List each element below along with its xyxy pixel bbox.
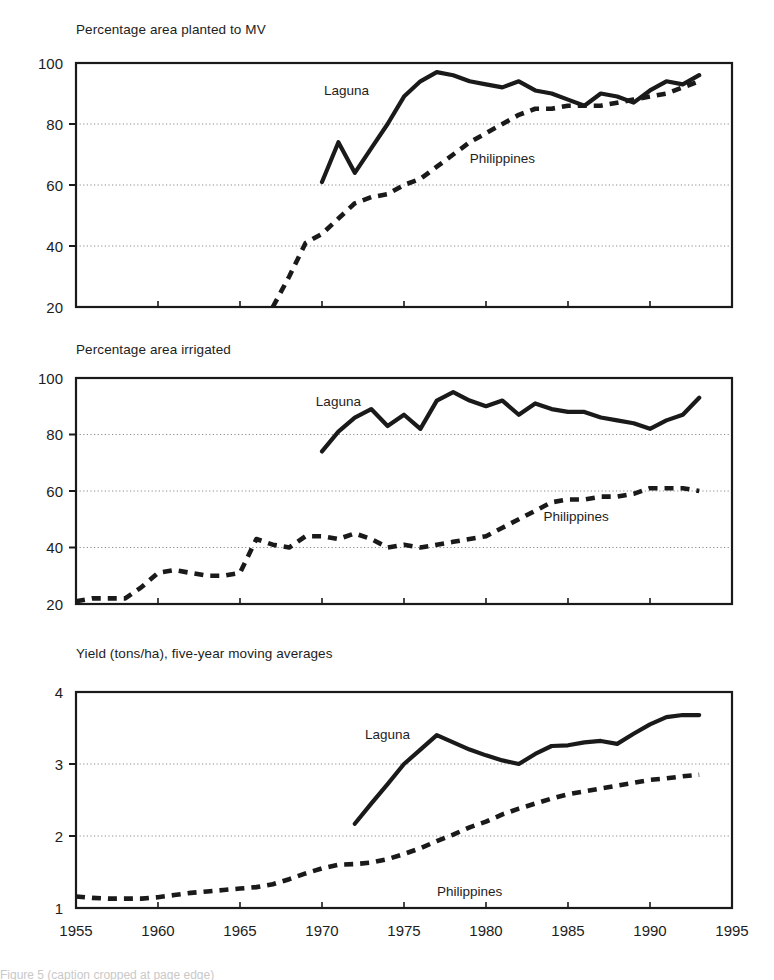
- y-tick-label: 40: [46, 238, 63, 255]
- plot-area-yield: 1234195519601965197019751980198519901995…: [0, 620, 774, 970]
- x-tick-label: 1955: [59, 922, 92, 939]
- chart-panel-mv: Percentage area planted to MV 2040608010…: [0, 0, 774, 320]
- plot-area-irrigated: 20406080100LagunaPhilippines: [0, 320, 774, 620]
- y-tick-label: 100: [38, 55, 63, 72]
- x-tick-label: 1995: [715, 922, 748, 939]
- y-tick-label: 40: [46, 539, 63, 556]
- x-tick-label: 1985: [551, 922, 584, 939]
- x-tick-label: 1980: [469, 922, 502, 939]
- x-tick-label: 1970: [305, 922, 338, 939]
- series-line-philippines: [273, 81, 699, 307]
- x-tick-label: 1975: [387, 922, 420, 939]
- series-line-laguna: [322, 392, 699, 451]
- y-tick-label: 60: [46, 483, 63, 500]
- caption-fragment: Figure 5 (caption cropped at page edge): [0, 968, 774, 980]
- series-label-philippines: Philippines: [470, 151, 536, 166]
- plot-frame: [76, 692, 732, 908]
- series-label-laguna: Laguna: [324, 83, 370, 98]
- y-tick-label: 20: [46, 299, 63, 316]
- series-label-laguna: Laguna: [316, 394, 362, 409]
- x-tick-label: 1990: [633, 922, 666, 939]
- figure-root: Percentage area planted to MV 2040608010…: [0, 0, 774, 980]
- series-label-philippines: Philippines: [437, 884, 503, 899]
- y-tick-label: 3: [55, 756, 63, 773]
- chart-panel-irrigated: Percentage area irrigated 20406080100Lag…: [0, 320, 774, 620]
- y-tick-label: 4: [55, 684, 63, 701]
- series-label-laguna: Laguna: [365, 727, 411, 742]
- series-label-philippines: Philippines: [544, 509, 610, 524]
- y-tick-label: 60: [46, 177, 63, 194]
- y-tick-label: 2: [55, 828, 63, 845]
- plot-area-mv: 20406080100LagunaPhilippines: [0, 0, 774, 320]
- y-tick-label: 20: [46, 596, 63, 613]
- y-tick-label: 1: [55, 900, 63, 917]
- y-tick-label: 80: [46, 116, 63, 133]
- x-tick-label: 1965: [223, 922, 256, 939]
- y-tick-label: 80: [46, 426, 63, 443]
- series-line-philippines: [76, 488, 699, 601]
- x-tick-label: 1960: [141, 922, 174, 939]
- chart-panel-yield: Yield (tons/ha), five-year moving averag…: [0, 620, 774, 970]
- series-line-philippines: [76, 775, 699, 899]
- y-tick-label: 100: [38, 370, 63, 387]
